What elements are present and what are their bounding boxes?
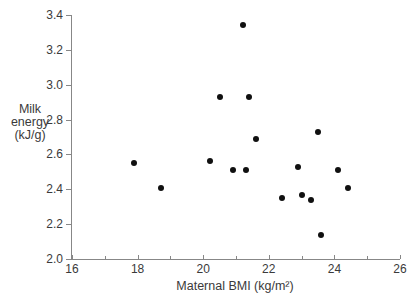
x-tick-label: 18 — [131, 263, 144, 275]
y-axis-tick — [66, 85, 72, 86]
data-point — [246, 94, 252, 100]
data-point — [253, 136, 259, 142]
y-tick-label: 2.8 — [35, 114, 63, 126]
scatter-plot-figure: Milk energy (kJ/g) 2.02.22.42.62.83.03.2… — [0, 0, 417, 305]
x-axis-title: Maternal BMI (kg/m²) — [71, 279, 399, 293]
y-axis-tick — [66, 259, 72, 260]
data-point — [230, 167, 236, 173]
data-point — [240, 22, 246, 28]
y-tick-label: 3.4 — [35, 9, 63, 21]
y-axis-title-line-3: (kJ/g) — [3, 129, 57, 142]
data-point — [299, 192, 305, 198]
x-tick-label: 26 — [393, 263, 406, 275]
plot-area: 2.02.22.42.62.83.03.23.4161820222426 — [71, 15, 400, 260]
y-tick-label: 3.2 — [35, 44, 63, 56]
data-point — [131, 160, 137, 166]
x-axis-major-tick — [400, 255, 401, 259]
x-axis-minor-tick — [236, 256, 237, 259]
y-axis-tick — [66, 15, 72, 16]
data-point — [207, 158, 213, 164]
y-axis-tick — [66, 189, 72, 190]
y-axis-tick — [66, 154, 72, 155]
x-axis-major-tick — [72, 255, 73, 259]
y-tick-label: 2.2 — [35, 218, 63, 230]
data-point — [335, 167, 341, 173]
data-point — [308, 197, 314, 203]
x-tick-label: 20 — [197, 263, 210, 275]
data-point — [318, 232, 324, 238]
x-axis-major-tick — [203, 255, 204, 259]
x-axis-major-tick — [269, 255, 270, 259]
x-axis-major-tick — [138, 255, 139, 259]
y-tick-label: 2.6 — [35, 148, 63, 160]
y-axis-tick — [66, 120, 72, 121]
y-tick-label: 2.4 — [35, 183, 63, 195]
x-tick-label: 22 — [262, 263, 275, 275]
data-point — [315, 129, 321, 135]
data-point — [345, 185, 351, 191]
data-point — [158, 185, 164, 191]
y-tick-label: 2.0 — [35, 253, 63, 265]
x-axis-minor-tick — [105, 256, 106, 259]
data-point — [217, 94, 223, 100]
x-axis-minor-tick — [367, 256, 368, 259]
x-axis-major-tick — [334, 255, 335, 259]
x-tick-label: 24 — [328, 263, 341, 275]
y-axis-tick — [66, 224, 72, 225]
data-point — [279, 195, 285, 201]
data-point — [243, 167, 249, 173]
y-axis-tick — [66, 50, 72, 51]
x-tick-label: 16 — [65, 263, 78, 275]
x-axis-minor-tick — [170, 256, 171, 259]
x-axis-minor-tick — [302, 256, 303, 259]
data-point — [295, 164, 301, 170]
y-tick-label: 3.0 — [35, 79, 63, 91]
